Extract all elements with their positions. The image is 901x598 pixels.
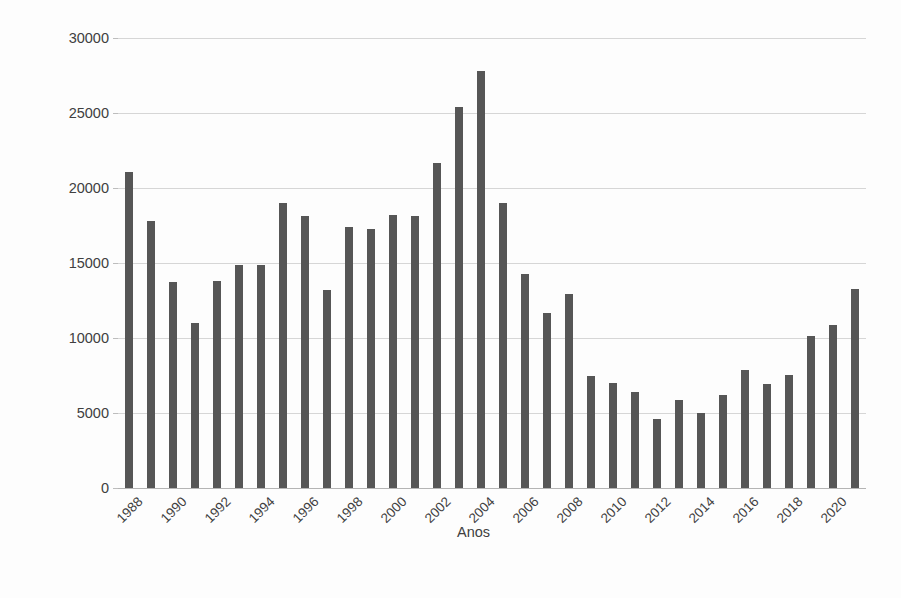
x-tick-label: 2010 (598, 494, 630, 526)
bar[interactable] (675, 400, 683, 488)
y-tick-label: 30000 (69, 30, 109, 46)
x-tick-label: 2018 (774, 494, 806, 526)
bar-series (118, 38, 866, 488)
x-tick-label: 2004 (466, 494, 498, 526)
bar[interactable] (631, 392, 639, 488)
bar[interactable] (499, 203, 507, 488)
bar[interactable] (345, 227, 353, 488)
y-tick-label: 5000 (77, 405, 109, 421)
bar[interactable] (213, 281, 221, 488)
x-tick-label: 2006 (510, 494, 542, 526)
bar[interactable] (609, 383, 617, 488)
bar[interactable] (697, 413, 705, 488)
x-tick-label: 2008 (554, 494, 586, 526)
bar[interactable] (565, 294, 573, 488)
bar[interactable] (829, 325, 837, 488)
bar[interactable] (411, 216, 419, 488)
bar[interactable] (653, 419, 661, 488)
bar[interactable] (807, 336, 815, 488)
bar[interactable] (763, 384, 771, 488)
x-tick-label: 1994 (246, 494, 278, 526)
x-tick-label: 1998 (334, 494, 366, 526)
deforestation-bar-chart: Taxa de desmatamento (km2) 0500010000150… (0, 0, 901, 598)
x-tick-label: 1990 (158, 494, 190, 526)
y-tick-label: 20000 (69, 180, 109, 196)
x-tick-label: 2012 (642, 494, 674, 526)
x-tick-label: 1996 (290, 494, 322, 526)
bar[interactable] (367, 229, 375, 488)
bar[interactable] (257, 265, 265, 488)
x-tick-label: 2020 (818, 494, 850, 526)
gridline (118, 488, 866, 489)
bar[interactable] (477, 71, 485, 488)
bar[interactable] (521, 274, 529, 488)
x-tick-label: 2002 (422, 494, 454, 526)
bar[interactable] (851, 289, 859, 488)
bar[interactable] (147, 221, 155, 488)
bar[interactable] (389, 215, 397, 488)
bar[interactable] (719, 395, 727, 488)
bar[interactable] (741, 370, 749, 488)
bar[interactable] (323, 290, 331, 488)
bar[interactable] (455, 107, 463, 488)
plot-area: 050001000015000200002500030000 198819901… (118, 38, 866, 488)
bar[interactable] (191, 323, 199, 488)
bar[interactable] (279, 203, 287, 488)
x-tick-label: 1988 (114, 494, 146, 526)
x-axis-title: Anos (0, 524, 901, 540)
bar[interactable] (169, 282, 177, 488)
bar[interactable] (785, 375, 793, 488)
bar[interactable] (125, 172, 133, 488)
bar[interactable] (543, 313, 551, 488)
x-tick-label: 2016 (730, 494, 762, 526)
y-tick-label: 10000 (69, 330, 109, 346)
y-tick-label: 0 (101, 480, 109, 496)
x-tick-label: 2000 (378, 494, 410, 526)
bar[interactable] (587, 376, 595, 488)
bar[interactable] (301, 216, 309, 488)
y-tick-mark (113, 488, 118, 489)
bar[interactable] (235, 265, 243, 488)
x-tick-label: 1992 (202, 494, 234, 526)
bar[interactable] (433, 163, 441, 488)
y-tick-label: 25000 (69, 105, 109, 121)
x-tick-label: 2014 (686, 494, 718, 526)
y-tick-label: 15000 (69, 255, 109, 271)
